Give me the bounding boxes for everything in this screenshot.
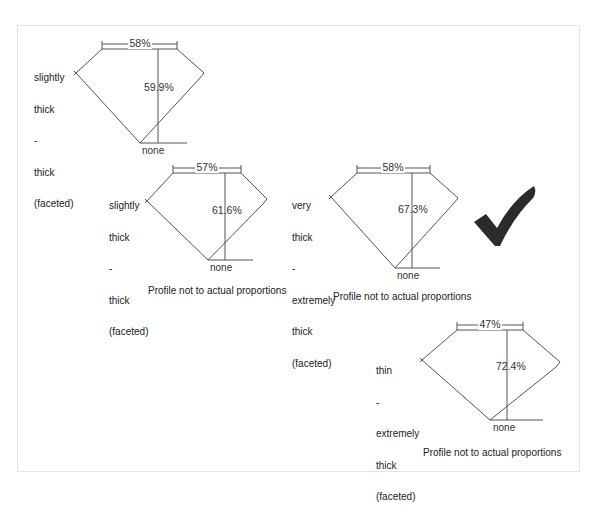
culet-label-1: none <box>142 145 165 156</box>
girdle-label-3: very thick - extremely thick (faceted) <box>292 180 335 380</box>
depth-pct-1: 59.9% <box>144 81 174 93</box>
table-pct-2: 57% <box>196 161 217 173</box>
table-pct-3: 58% <box>382 161 403 173</box>
caption-profile-4: Profile not to actual proportions <box>423 447 561 458</box>
caption-profile-2: Profile not to actual proportions <box>148 285 286 296</box>
culet-label-2: none <box>210 262 233 273</box>
table-pct-1: 58% <box>129 37 150 49</box>
girdle-label-4: thin - extremely thick (faceted) <box>376 345 419 506</box>
girdle-label-1: slightly thick - thick (faceted) <box>34 52 73 220</box>
diamond-profile-4 <box>420 322 560 420</box>
depth-pct-4: 72.4% <box>496 360 526 372</box>
girdle-label-2: slightly thick - thick (faceted) <box>109 180 148 348</box>
culet-label-4: none <box>493 422 516 433</box>
diamond-profile-3 <box>329 165 458 268</box>
diamond-profile-1 <box>74 41 204 143</box>
diamond-profile-2 <box>145 165 267 260</box>
depth-pct-3: 67.3% <box>398 203 428 215</box>
depth-pct-2: 61.6% <box>212 204 242 216</box>
table-pct-4: 47% <box>479 318 500 330</box>
culet-label-3: none <box>397 270 420 281</box>
caption-profile-3: Profile not to actual proportions <box>333 291 471 302</box>
checkmark-icon <box>474 186 535 246</box>
